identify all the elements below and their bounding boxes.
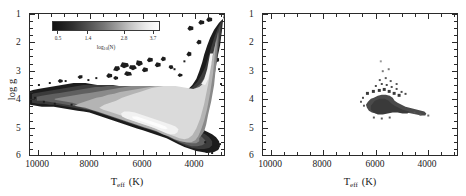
ytick-minor-right	[221, 35, 224, 36]
xtick-minor-top	[116, 14, 117, 17]
ytick-minor	[263, 21, 266, 22]
ytick-minor	[30, 121, 33, 122]
xtick-minor	[169, 152, 170, 155]
xtick-minor-top	[129, 14, 130, 17]
ytick-minor	[263, 49, 266, 50]
xtick-minor	[336, 152, 337, 155]
xtick-minor-top	[336, 14, 337, 17]
ytick-minor-right	[454, 49, 457, 50]
xtick-minor-top	[310, 14, 311, 17]
ytick-minor	[263, 135, 266, 136]
xtick-label: 6000	[133, 159, 152, 169]
xtick-major-top	[428, 14, 429, 19]
xtick-label: 4000	[418, 159, 437, 169]
colorbar-title-main: log	[97, 44, 104, 50]
ytick-minor-right	[221, 113, 224, 114]
ytick-minor	[30, 106, 33, 107]
xtick-major	[428, 150, 429, 155]
ytick-label: 1	[16, 9, 21, 19]
ytick-minor	[30, 28, 33, 29]
ytick-minor	[30, 49, 33, 50]
ytick-major	[30, 71, 35, 72]
ytick-major	[30, 128, 35, 129]
xtick-minor-top	[64, 14, 65, 17]
xtick-minor-top	[182, 14, 183, 17]
ytick-minor-right	[221, 49, 224, 50]
ytick-minor-right	[454, 64, 457, 65]
xtick-minor-top	[284, 14, 285, 17]
ytick-minor	[263, 149, 266, 150]
ytick-major-right	[452, 71, 457, 72]
ytick-minor-right	[454, 121, 457, 122]
xtick-minor-top	[402, 14, 403, 17]
ytick-minor-right	[454, 35, 457, 36]
ytick-label: 6	[16, 150, 21, 160]
ytick-minor	[263, 142, 266, 143]
ytick-minor	[263, 64, 266, 65]
ytick-major	[263, 14, 268, 15]
ytick-minor-right	[221, 142, 224, 143]
ytick-major	[30, 99, 35, 100]
xtick-major	[271, 150, 272, 155]
ytick-minor-right	[454, 56, 457, 57]
ytick-minor-right	[221, 28, 224, 29]
ytick-minor	[263, 78, 266, 79]
xtick-minor	[454, 152, 455, 155]
ytick-major	[263, 42, 268, 43]
ytick-major-right	[452, 42, 457, 43]
xtick-minor	[64, 152, 65, 155]
xtick-major-top	[38, 14, 39, 19]
ytick-label: 4	[249, 94, 254, 104]
ytick-major-right	[219, 128, 224, 129]
ytick-minor-right	[221, 56, 224, 57]
ytick-minor	[263, 113, 266, 114]
ytick-major-right	[452, 99, 457, 100]
ytick-minor-right	[221, 21, 224, 22]
xtick-minor-top	[297, 14, 298, 17]
xtick-major	[143, 150, 144, 155]
plot-frame-right	[262, 13, 458, 156]
ytick-minor-right	[454, 28, 457, 29]
ytick-minor	[263, 28, 266, 29]
ytick-minor	[30, 113, 33, 114]
ytick-minor	[30, 21, 33, 22]
xtick-major	[195, 150, 196, 155]
xtick-minor-top	[169, 14, 170, 17]
ytick-minor	[30, 149, 33, 150]
ytick-minor-right	[454, 85, 457, 86]
xtick-minor	[221, 152, 222, 155]
ytick-minor	[30, 78, 33, 79]
ytick-label: 1	[249, 9, 254, 19]
ytick-minor-right	[454, 135, 457, 136]
scatter-cluster	[263, 14, 457, 155]
xtick-minor	[349, 152, 350, 155]
ytick-label: 2	[16, 37, 21, 47]
xtick-major	[323, 150, 324, 155]
ytick-major-right	[219, 99, 224, 100]
ytick-major	[30, 42, 35, 43]
xtick-minor	[415, 152, 416, 155]
ytick-minor-right	[454, 78, 457, 79]
xtick-minor-top	[349, 14, 350, 17]
ytick-major-right	[219, 71, 224, 72]
xtick-minor-top	[208, 14, 209, 17]
ytick-major-right	[452, 128, 457, 129]
ytick-label: 4	[16, 94, 21, 104]
xtick-major-top	[323, 14, 324, 19]
xtick-minor-top	[103, 14, 104, 17]
ytick-minor-right	[221, 121, 224, 122]
colorbar-title-tail: (N)	[108, 44, 115, 50]
ytick-major	[30, 14, 35, 15]
colorbar-tick-label: 0.5	[55, 35, 61, 41]
x-axis-title: Teff(K)	[262, 176, 458, 189]
xtick-minor-top	[51, 14, 52, 17]
xtick-minor	[310, 152, 311, 155]
ytick-minor	[30, 142, 33, 143]
panel-right: 10000 8000 6000 4000 1 2 3 4 5 6 Teff(K)	[233, 0, 466, 196]
xtick-minor	[51, 152, 52, 155]
xtick-major	[90, 150, 91, 155]
ytick-major	[263, 99, 268, 100]
ytick-minor	[263, 56, 266, 57]
x-axis-title-unit: (K)	[362, 176, 377, 187]
xtick-major-top	[195, 14, 196, 19]
